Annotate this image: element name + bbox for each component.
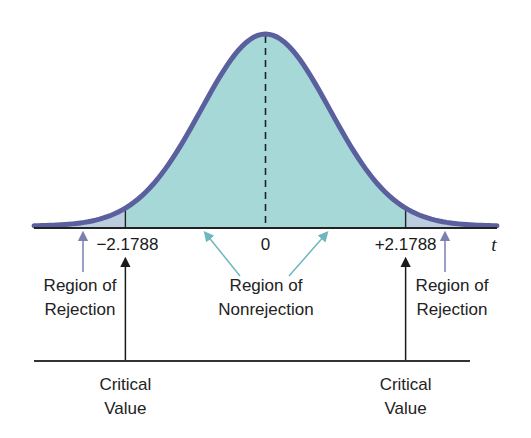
tick-label-left-critical: −2.1788: [96, 235, 158, 254]
critical-left-label-line1: Critical: [99, 375, 151, 394]
nonrejection-label-line2: Nonrejection: [218, 300, 313, 319]
rejection-right-label-line1: Region of: [416, 276, 489, 295]
nonrejection-left-arrow: [207, 235, 240, 276]
t-distribution-diagram: −2.1788 0 +2.1788 t Region of Rejection …: [0, 0, 531, 438]
critical-right-label-line1: Critical: [380, 375, 432, 394]
tick-label-right-critical: +2.1788: [375, 235, 437, 254]
axis-variable-label: t: [491, 234, 497, 255]
critical-value-left-label: Critical Value: [99, 375, 151, 418]
rejection-left-label: Region of Rejection: [44, 276, 117, 319]
rejection-left-label-line1: Region of: [44, 276, 117, 295]
rejection-right-label-line2: Rejection: [417, 300, 488, 319]
critical-right-label-line2: Value: [384, 399, 426, 418]
rejection-right-label: Region of Rejection: [416, 276, 489, 319]
rejection-left-label-line2: Rejection: [45, 300, 116, 319]
critical-left-label-line2: Value: [104, 399, 146, 418]
nonrejection-label: Region of Nonrejection: [218, 276, 313, 319]
nonrejection-right-arrow: [289, 235, 325, 276]
tick-label-center: 0: [261, 235, 270, 254]
nonrejection-label-line1: Region of: [230, 276, 303, 295]
critical-value-right-label: Critical Value: [380, 375, 432, 418]
